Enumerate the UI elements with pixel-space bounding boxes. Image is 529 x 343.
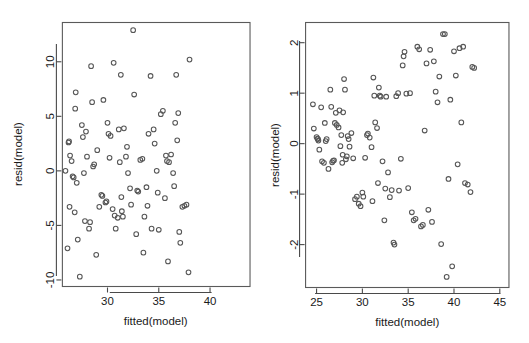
data-point bbox=[468, 190, 473, 195]
data-point bbox=[369, 145, 374, 150]
data-point bbox=[89, 64, 94, 69]
data-point bbox=[409, 210, 414, 215]
data-point bbox=[122, 126, 127, 131]
data-point bbox=[81, 135, 86, 140]
data-point bbox=[94, 253, 99, 258]
left-y-ticks: 1050-5-10 bbox=[44, 55, 61, 288]
data-point bbox=[174, 73, 179, 78]
data-point bbox=[110, 207, 115, 212]
data-point bbox=[134, 232, 139, 237]
data-point bbox=[118, 73, 123, 78]
data-point bbox=[376, 85, 381, 90]
left-ylabel: resid(model) bbox=[12, 122, 24, 186]
data-point bbox=[387, 195, 392, 200]
left-plot-border bbox=[62, 23, 250, 287]
left-panel: 1050-5-10 303540 fitted(model) resid(mod… bbox=[0, 0, 265, 343]
data-point bbox=[375, 181, 380, 186]
data-point bbox=[436, 74, 441, 79]
data-point bbox=[107, 155, 112, 160]
data-point bbox=[125, 145, 130, 150]
data-point bbox=[124, 154, 129, 159]
data-point bbox=[176, 111, 181, 116]
y-tick-label: -1 bbox=[287, 189, 299, 199]
data-point bbox=[104, 199, 109, 204]
data-point bbox=[71, 175, 76, 180]
data-point bbox=[371, 93, 376, 98]
left-scatter-svg: 1050-5-10 303540 fitted(model) resid(mod… bbox=[0, 0, 265, 343]
right-y-axis: 210-1-2 bbox=[287, 39, 304, 257]
data-point bbox=[95, 148, 100, 153]
data-point bbox=[111, 61, 116, 66]
data-point bbox=[87, 226, 92, 231]
data-point bbox=[63, 169, 68, 174]
data-point bbox=[405, 186, 410, 191]
data-point bbox=[458, 120, 463, 125]
data-point bbox=[156, 227, 161, 232]
data-point bbox=[328, 104, 333, 109]
data-point bbox=[171, 171, 176, 176]
y-tick-label: -2 bbox=[287, 239, 299, 249]
data-point bbox=[447, 97, 452, 102]
data-point bbox=[101, 98, 106, 103]
data-point bbox=[83, 219, 88, 224]
data-point bbox=[172, 184, 177, 189]
data-point bbox=[349, 131, 354, 136]
data-point bbox=[326, 167, 331, 172]
data-point bbox=[380, 159, 385, 164]
data-point bbox=[311, 126, 316, 131]
data-point bbox=[88, 220, 93, 225]
data-point bbox=[97, 205, 102, 210]
data-point bbox=[105, 121, 110, 126]
data-point bbox=[142, 214, 147, 219]
data-point bbox=[327, 87, 332, 92]
right-x-axis: 2530354045 bbox=[310, 289, 506, 309]
right-scatter-svg: 210-1-2 2530354045 fitted(model) resid(m… bbox=[265, 0, 529, 343]
y-tick-label: -10 bbox=[44, 272, 56, 289]
data-point bbox=[80, 123, 85, 128]
data-point bbox=[69, 159, 74, 164]
data-point bbox=[451, 49, 456, 54]
left-y-axis: 1050-5-10 bbox=[44, 44, 61, 288]
data-point bbox=[117, 160, 122, 165]
data-point bbox=[72, 210, 77, 215]
y-tick-label: 5 bbox=[44, 113, 56, 119]
data-point bbox=[177, 230, 182, 235]
data-point bbox=[178, 241, 183, 246]
data-point bbox=[82, 171, 87, 176]
data-point bbox=[166, 259, 171, 264]
residual-plot-figure: 1050-5-10 303540 fitted(model) resid(mod… bbox=[0, 0, 529, 343]
data-point bbox=[370, 199, 375, 204]
data-point bbox=[435, 100, 440, 105]
left-data-points bbox=[63, 28, 192, 279]
data-point bbox=[316, 147, 321, 152]
data-point bbox=[100, 194, 105, 199]
right-plot-region bbox=[305, 23, 508, 288]
data-point bbox=[424, 61, 429, 66]
data-point bbox=[113, 226, 118, 231]
data-point bbox=[322, 121, 327, 126]
data-point bbox=[401, 54, 406, 59]
data-point bbox=[187, 57, 192, 62]
data-point bbox=[382, 186, 387, 191]
data-point bbox=[121, 214, 126, 219]
data-point bbox=[129, 202, 134, 207]
y-tick-label: 10 bbox=[44, 55, 56, 68]
data-point bbox=[65, 246, 70, 251]
right-panel: 210-1-2 2530354045 fitted(model) resid(m… bbox=[265, 0, 529, 343]
data-point bbox=[350, 156, 355, 161]
right-y-ticks: 210-1-2 bbox=[287, 39, 304, 249]
data-point bbox=[382, 218, 387, 223]
x-tick-label: 40 bbox=[447, 297, 460, 309]
data-point bbox=[341, 77, 346, 82]
data-point bbox=[385, 170, 390, 175]
data-point bbox=[146, 131, 151, 136]
data-point bbox=[425, 207, 430, 212]
data-point bbox=[402, 49, 407, 54]
data-point bbox=[372, 120, 377, 125]
data-point bbox=[374, 126, 379, 131]
data-point bbox=[344, 154, 349, 159]
left-plot-region bbox=[62, 23, 250, 287]
data-point bbox=[444, 275, 449, 280]
data-point bbox=[169, 152, 174, 157]
left-x-axis: 303540 bbox=[101, 288, 216, 308]
